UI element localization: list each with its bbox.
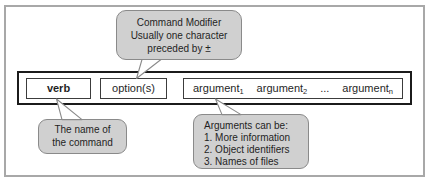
argument-item: argument2 bbox=[257, 83, 308, 94]
argument-subscript: 2 bbox=[303, 87, 307, 96]
argument-item: argument1 bbox=[193, 83, 244, 94]
figure-canvas: Command Modifier Usually one character p… bbox=[0, 0, 430, 185]
verb-label: verb bbox=[47, 83, 70, 94]
callout-command-modifier: Command Modifier Usually one character p… bbox=[116, 10, 242, 60]
callout-line: Command Modifier bbox=[117, 16, 241, 29]
argument-label: argument bbox=[342, 82, 388, 94]
argument-subscript: n bbox=[389, 87, 393, 96]
argument-ellipsis: ... bbox=[320, 82, 329, 94]
callout-line: 3. Names of files bbox=[204, 156, 308, 168]
callout-line: Arguments can be: bbox=[204, 120, 308, 132]
options-label: option(s) bbox=[112, 83, 155, 94]
argument-subscript: 1 bbox=[239, 87, 243, 96]
argument-label: argument bbox=[193, 82, 239, 94]
callout-verb-note: The name of the command bbox=[38, 119, 127, 154]
callout-line: Usually one character bbox=[117, 29, 241, 42]
callout-line: 2. Object identifiers bbox=[204, 144, 308, 156]
verb-box: verb bbox=[26, 78, 91, 99]
argument-label: argument bbox=[257, 82, 303, 94]
callout-line: preceded by ± bbox=[117, 42, 241, 55]
callout-arguments-note: Arguments can be: 1. More information 2.… bbox=[193, 114, 309, 169]
callout-line: the command bbox=[39, 137, 126, 150]
callout-line: The name of bbox=[39, 124, 126, 137]
arguments-box: argument1 argument2 ... argumentn bbox=[183, 78, 403, 99]
callout-line: 1. More information bbox=[204, 132, 308, 144]
argument-item: argumentn bbox=[342, 83, 393, 94]
options-box: option(s) bbox=[100, 78, 167, 99]
argument-item: ... bbox=[320, 83, 329, 94]
